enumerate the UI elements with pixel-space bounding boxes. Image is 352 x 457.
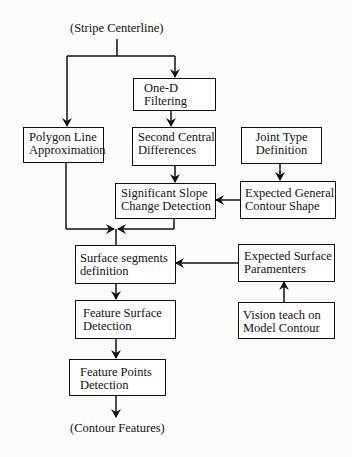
box-line: Paramenters [244,263,330,276]
output-label: (Contour Features) [70,421,165,436]
box-second-central-differences: Second Central Differences [132,127,216,166]
box-line: Differences [138,144,211,157]
box-line: Filtering [144,95,211,108]
box-line: Contour Shape [245,200,331,213]
flowchart: (Stripe Centerline) One-D Filtering Poly… [0,0,352,457]
box-expected-surface-paramenters: Expected Surface Paramenters [238,244,335,282]
box-line: Definition [245,144,318,157]
box-one-d-filtering: One-D Filtering [133,78,216,111]
box-joint-type-definition: Joint Type Definition [241,127,322,164]
box-line: Detection [83,320,171,333]
box-line: definition [80,265,171,278]
box-surface-segments-definition: Surface segments definition [75,245,176,284]
box-line: Change Detection [121,200,211,213]
box-feature-surface-detection: Feature Surface Detection [75,300,176,339]
box-line: Approximation [29,144,99,157]
box-vision-teach-on-model-contour: Vision teach on Model Contour [238,302,335,339]
box-polygon-line-approximation: Polygon Line Approximation [23,127,104,163]
connector-lines [0,0,352,457]
box-expected-general-contour-shape: Expected General Contour Shape [240,181,336,219]
box-line: Model Contour [243,322,330,335]
input-label: (Stripe Centerline) [70,21,163,36]
box-line: Detection [80,379,161,392]
box-feature-points-detection: Feature Points Detection [69,359,166,396]
box-significant-slope-change-detection: Significant Slope Change Detection [115,183,216,219]
